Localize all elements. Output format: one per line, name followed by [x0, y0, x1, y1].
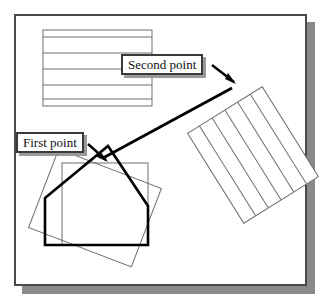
callout-second-point-label: Second point: [128, 58, 196, 71]
thin-rectangle-rotated: [29, 149, 162, 267]
hatched-rectangle-rotated: [188, 87, 319, 224]
rect-outline: [29, 149, 162, 267]
callout-second-point[interactable]: Second point: [121, 54, 203, 75]
arrowhead-icon: [225, 73, 236, 84]
thick-polygon: [45, 146, 148, 245]
callout-first-point[interactable]: First point: [16, 132, 84, 153]
second-point-arrow: [212, 65, 236, 84]
cad-figure: Second point First point: [0, 0, 325, 302]
callout-first-point-label: First point: [23, 136, 77, 149]
thin-rectangle-axis-aligned: [62, 163, 148, 245]
